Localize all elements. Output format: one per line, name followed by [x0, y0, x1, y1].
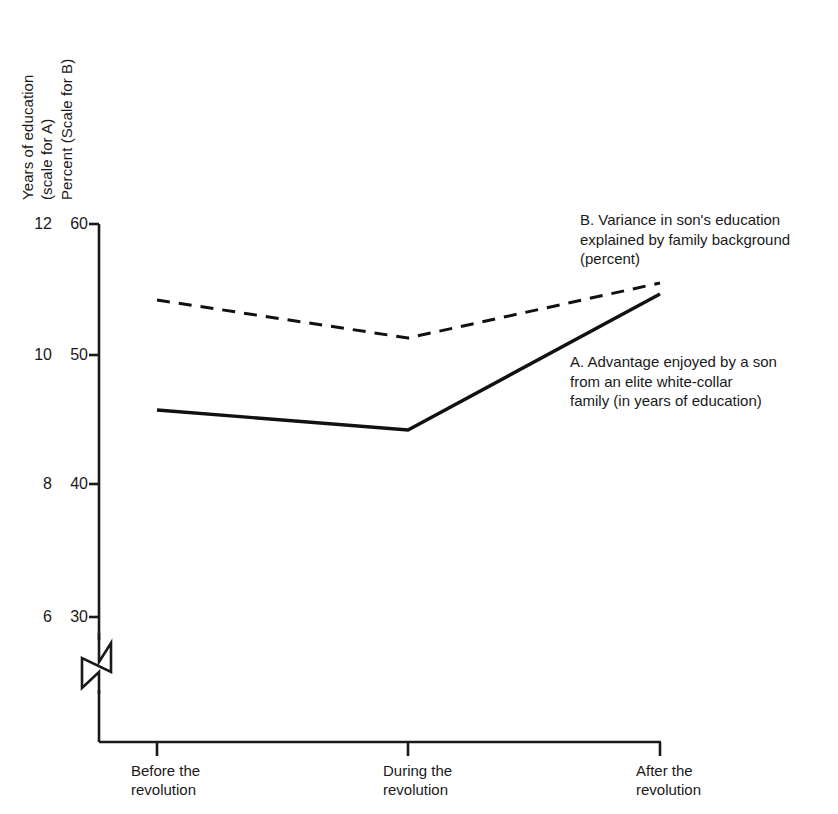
x-tick-label-during-line1: During the: [383, 762, 452, 779]
series-a-annotation-line1: A. Advantage enjoyed by a son: [570, 353, 777, 370]
x-tick-label-after: After therevolution: [636, 761, 701, 799]
x-tick-label-before-line2: revolution: [131, 781, 196, 798]
series-b-line: [157, 283, 660, 338]
chart-container: Years of education(scale for A) Percent …: [0, 0, 838, 814]
x-tick-label-before-line1: Before the: [131, 762, 200, 779]
series-a-annotation-line2: from an elite white-collar: [570, 373, 733, 390]
x-tick-label-during-line2: revolution: [383, 781, 448, 798]
series-a-annotation: A. Advantage enjoyed by a sonfrom an eli…: [570, 352, 777, 411]
x-tick-label-after-line2: revolution: [636, 781, 701, 798]
x-tick-label-after-line1: After the: [636, 762, 693, 779]
series-b-annotation-line3: (percent): [580, 250, 640, 267]
x-tick-label-before: Before therevolution: [131, 761, 200, 799]
series-b-annotation: B. Variance in son's educationexplained …: [580, 210, 790, 269]
series-a-annotation-line3: family (in years of education): [570, 392, 762, 409]
series-b-annotation-line2: explained by family background: [580, 231, 790, 248]
series-b-annotation-line1: B. Variance in son's education: [580, 211, 780, 228]
x-tick-label-during: During therevolution: [383, 761, 452, 799]
